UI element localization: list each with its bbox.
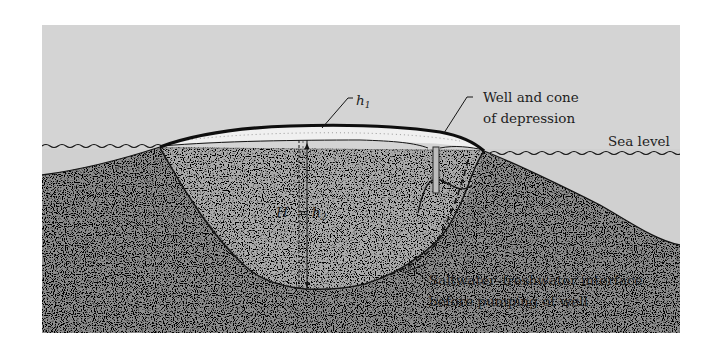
label-equals: = (297, 204, 308, 220)
well-casing (433, 147, 439, 193)
label-well-line2: of depression (483, 110, 575, 126)
label-H: H (275, 204, 288, 220)
label-interface-line1: Saltwater–freshwater interface (429, 272, 643, 288)
island-freshwater-lens-diagram: h1 Well and cone of depression Sea level… (0, 0, 718, 356)
label-interface-line2: before pumping of well (429, 293, 588, 309)
label-sea-level: Sea level (608, 133, 670, 149)
label-well-line1: Well and cone (483, 89, 579, 105)
